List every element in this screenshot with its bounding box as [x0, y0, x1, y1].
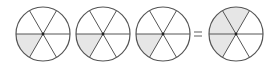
fraction-diagram — [0, 0, 274, 66]
circle-2 — [76, 7, 130, 61]
circle-4 — [209, 7, 263, 61]
circle-3 — [136, 7, 190, 61]
equals-sign — [194, 32, 202, 36]
center-dot — [162, 33, 165, 36]
circle-1 — [16, 7, 70, 61]
center-dot — [235, 33, 238, 36]
center-dot — [42, 33, 45, 36]
center-dot — [102, 33, 105, 36]
fraction-circles — [16, 7, 263, 61]
